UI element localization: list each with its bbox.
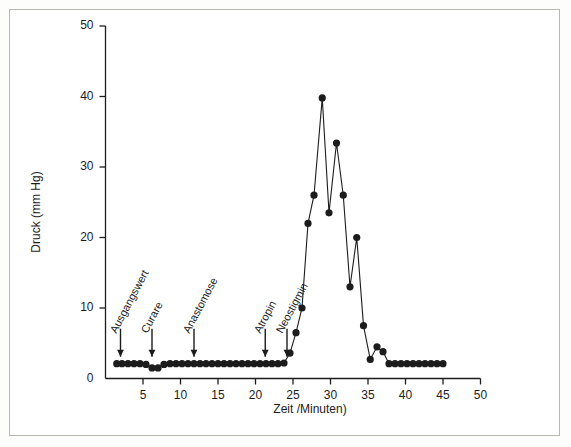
y-tick-label: 50 <box>54 18 94 32</box>
x-tick-label: 25 <box>273 388 313 402</box>
axes <box>100 26 481 385</box>
x-tick-label: 45 <box>423 388 463 402</box>
y-axis-title: Druck (mm Hg) <box>29 152 43 272</box>
x-tick-label: 30 <box>311 388 351 402</box>
x-tick-label: 50 <box>461 388 501 402</box>
x-tick-label: 15 <box>198 388 238 402</box>
x-tick-label: 40 <box>386 388 426 402</box>
figure-container: Druck (mm Hg) Zeit /Minuten) 51015202530… <box>0 0 571 447</box>
x-tick-label: 5 <box>123 388 163 402</box>
y-tick-label: 30 <box>54 159 94 173</box>
annotation-arrows <box>117 329 290 357</box>
y-tick-label: 0 <box>54 371 94 385</box>
y-tick-label: 20 <box>54 230 94 244</box>
x-axis-title: Zeit /Minuten) <box>230 402 390 416</box>
y-tick-label: 40 <box>54 89 94 103</box>
y-tick-label: 10 <box>54 300 94 314</box>
x-tick-label: 35 <box>348 388 388 402</box>
x-tick-label: 10 <box>161 388 201 402</box>
x-tick-label: 20 <box>236 388 276 402</box>
